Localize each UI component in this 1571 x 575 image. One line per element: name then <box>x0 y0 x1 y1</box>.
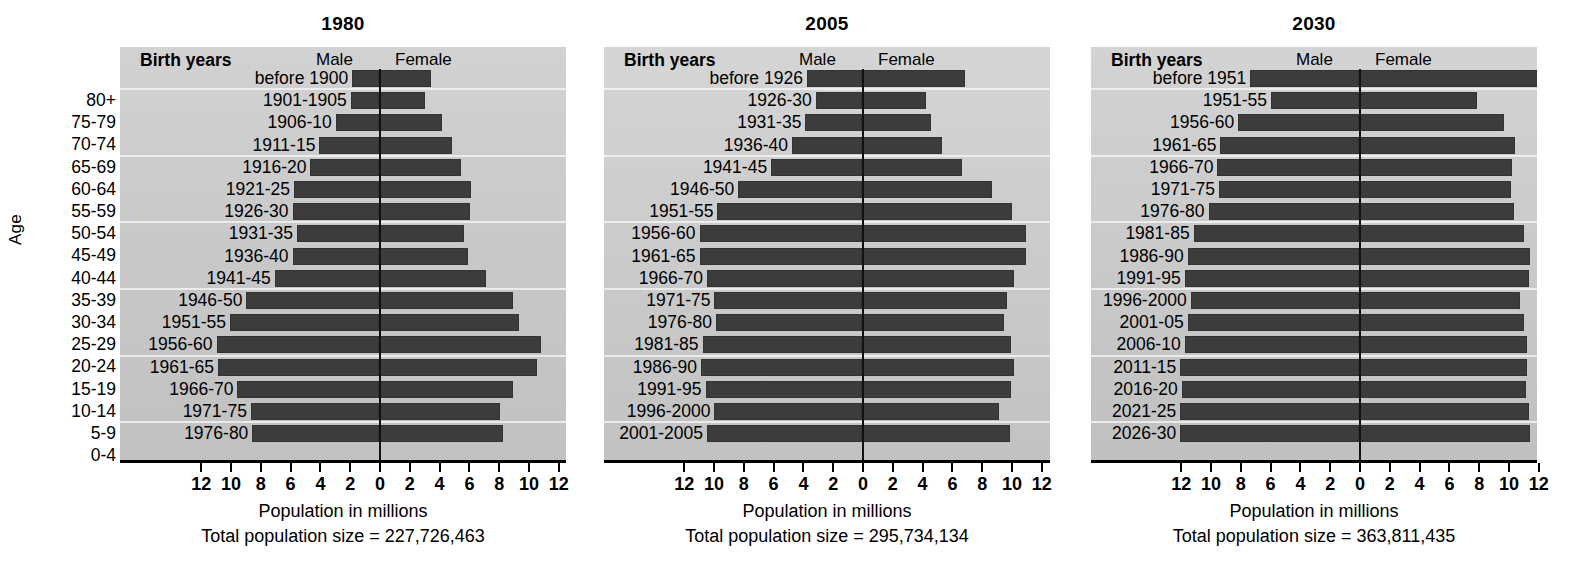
x-axis-tick <box>1478 463 1480 472</box>
x-axis-tick <box>1270 463 1272 472</box>
bar-female <box>1359 181 1511 198</box>
bar-male <box>707 270 862 287</box>
bar-male <box>1219 181 1359 198</box>
age-group-label: 5-9 <box>91 424 116 443</box>
x-axis-tick <box>1538 463 1540 472</box>
age-group-label: 45-49 <box>71 246 116 265</box>
x-axis-tick-label: 8 <box>494 474 504 495</box>
bar-female <box>862 181 992 198</box>
x-axis-tick-label: 12 <box>674 474 694 495</box>
birth-years-label: 2016-20 <box>1113 380 1177 399</box>
age-group-label: 75-79 <box>71 113 116 132</box>
x-axis-tick-label: 2 <box>888 474 898 495</box>
pyramid-row: 1911-15 <box>120 136 566 155</box>
bar-female <box>862 225 1026 242</box>
bar-female <box>1359 381 1526 398</box>
bar-female <box>379 292 513 309</box>
x-axis-tick-label: 2 <box>345 474 355 495</box>
column-header-female: Female <box>1375 50 1432 70</box>
pyramid-row: 1956-60 <box>1091 113 1537 132</box>
x-axis-tick-label: 8 <box>739 474 749 495</box>
bar-female <box>379 425 503 442</box>
x-axis-tick <box>1329 463 1331 472</box>
bar-male <box>293 248 379 265</box>
birth-years-label: before 1951 <box>1153 69 1246 88</box>
age-group-label: 40-44 <box>71 269 116 288</box>
x-axis-tick-label: 4 <box>1295 474 1305 495</box>
bar-male <box>217 336 379 353</box>
bar-female <box>862 92 926 109</box>
bar-male <box>230 314 379 331</box>
pyramid-row: 2026-30 <box>1091 424 1537 443</box>
zero-axis-line <box>1359 69 1361 460</box>
birth-years-label: 1976-80 <box>184 424 248 443</box>
pyramid-row: 1906-10 <box>120 113 566 132</box>
birth-years-label: 1961-65 <box>1152 136 1216 155</box>
age-group-label: 65-69 <box>71 158 116 177</box>
age-group-label: 35-39 <box>71 291 116 310</box>
x-axis-tick <box>379 463 381 472</box>
gridline <box>120 221 566 223</box>
x-axis-tick <box>1210 463 1212 472</box>
pyramid-row: 1996-2000 <box>604 402 1050 421</box>
age-group-label: 55-59 <box>71 202 116 221</box>
x-axis-tick-label: 6 <box>286 474 296 495</box>
pyramid-row: 1916-20 <box>120 158 566 177</box>
pyramid-row: 1976-80 <box>120 424 566 443</box>
x-axis-tick <box>468 463 470 472</box>
birth-years-label: 1921-25 <box>226 180 290 199</box>
bar-male <box>336 114 379 131</box>
bar-male <box>293 203 379 220</box>
bar-female <box>379 114 442 131</box>
x-axis-tick <box>260 463 262 472</box>
y-axis-label: Age <box>6 214 26 245</box>
bar-male <box>1238 114 1359 131</box>
pyramid-row: 1971-75 <box>120 402 566 421</box>
bar-male <box>1188 248 1359 265</box>
x-axis-tick <box>498 463 500 472</box>
birth-years-label: 1966-70 <box>639 269 703 288</box>
x-axis-tick-label: 10 <box>221 474 241 495</box>
bar-female <box>1359 225 1524 242</box>
age-group-label: 60-64 <box>71 180 116 199</box>
pyramid-row: 1926-30 <box>120 202 566 221</box>
pyramid-row: 1956-60 <box>604 224 1050 243</box>
bar-female <box>862 381 1011 398</box>
birth-years-label: 1961-65 <box>150 358 214 377</box>
bar-female <box>862 425 1010 442</box>
bar-female <box>379 314 519 331</box>
bar-male <box>1271 92 1359 109</box>
age-group-label: 15-19 <box>71 380 116 399</box>
zero-axis-line <box>379 69 381 460</box>
bar-male <box>714 403 862 420</box>
x-axis-tick-label: 12 <box>549 474 569 495</box>
pyramid-row: 2021-25 <box>1091 402 1537 421</box>
x-axis-tick-label: 10 <box>1499 474 1519 495</box>
column-header-male: Male <box>1296 50 1333 70</box>
bar-male <box>805 114 862 131</box>
x-axis-tick-label: 0 <box>375 474 385 495</box>
x-axis-tick-label: 6 <box>769 474 779 495</box>
age-group-label: 20-24 <box>71 357 116 376</box>
birth-years-label: 1946-50 <box>178 291 242 310</box>
x-axis-tick <box>832 463 834 472</box>
birth-years-label: 2011-15 <box>1113 358 1176 377</box>
bar-female <box>862 270 1014 287</box>
panel-title: 2030 <box>1091 13 1537 35</box>
bar-male <box>1217 159 1359 176</box>
plot-area: Birth yearsMaleFemalebefore 19511951-551… <box>1091 47 1537 460</box>
bar-female <box>1359 159 1512 176</box>
bar-female <box>379 359 537 376</box>
x-axis-tick <box>802 463 804 472</box>
pyramid-row: 2001-05 <box>1091 313 1537 332</box>
x-axis-tick-label: 2 <box>405 474 415 495</box>
x-axis-tick-label: 6 <box>947 474 957 495</box>
total-population-label: Total population size = 363,811,435 <box>1091 526 1537 547</box>
birth-years-label: 1986-90 <box>1119 247 1183 266</box>
x-axis-tick <box>1448 463 1450 472</box>
birth-years-label: 1961-65 <box>631 247 695 266</box>
bar-female <box>379 225 464 242</box>
x-axis-tick-label: 6 <box>1444 474 1454 495</box>
birth-years-label: 1986-90 <box>633 358 697 377</box>
x-axis-tick-label: 8 <box>1236 474 1246 495</box>
